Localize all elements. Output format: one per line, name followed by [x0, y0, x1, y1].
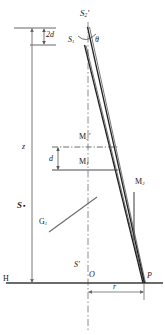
beam-ray-inner: [85, 45, 144, 283]
label-baseline-H: H: [3, 275, 9, 283]
label-source-point-S: S▪: [17, 201, 26, 210]
label-beamsplitter-G1: G1: [39, 218, 47, 227]
label-source-S1: S1: [68, 36, 74, 45]
label-source-S2-prime: S2′: [80, 9, 89, 18]
optical-ray-diagram-figure: S2′ S1 θ 2d d z S▪ M2′ M1 M2 G1 S′ O P H: [0, 0, 165, 335]
dimension-arrow-z: [30, 28, 34, 283]
diagram-canvas: [0, 0, 165, 335]
angle-arc-theta: [78, 34, 96, 40]
dimension-arrow-d: [56, 147, 59, 170]
label-origin-O: O: [89, 271, 95, 279]
beam-ray-outer: [88, 27, 145, 283]
label-mirror-M2: M2: [135, 178, 145, 187]
label-distance-r: r: [113, 283, 116, 291]
beam-ray-outer-edge: [90, 27, 146, 283]
beamsplitter-G1-line: [49, 197, 97, 232]
label-point-P: P: [147, 272, 152, 280]
label-height-z: z: [22, 143, 25, 151]
label-angle-theta: θ: [95, 36, 99, 44]
label-separation-d: d: [49, 155, 53, 163]
beam-ray-inner-edge: [86, 46, 144, 284]
label-mirror-M1: M1: [79, 158, 89, 167]
label-separation-2d: 2d: [46, 31, 54, 39]
label-image-S-prime: S′: [74, 261, 80, 269]
label-mirror-M2-prime: M2′: [79, 133, 90, 142]
